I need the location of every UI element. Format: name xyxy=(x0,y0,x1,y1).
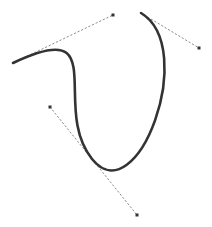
control-point-handle-2[interactable] xyxy=(198,47,201,50)
control-point-handle-3[interactable] xyxy=(49,106,52,109)
bezier-curve[interactable] xyxy=(13,13,165,170)
control-point-handle-4[interactable] xyxy=(136,214,139,217)
handle-lines xyxy=(13,13,199,215)
control-point-handle-1[interactable] xyxy=(112,14,115,17)
control-points xyxy=(49,14,201,217)
bezier-canvas xyxy=(0,0,212,227)
